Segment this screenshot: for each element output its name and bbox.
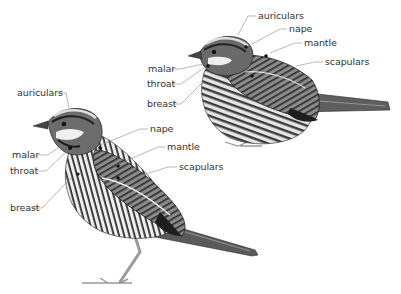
label-breast-right: breast [147, 99, 176, 109]
left-bird-foot [82, 278, 132, 283]
label-mantle-left: mantle [167, 142, 200, 152]
right-bird [188, 36, 390, 146]
right-bird-eye [212, 50, 216, 54]
label-throat-left: throat [10, 166, 38, 176]
label-nape-left: nape [150, 124, 173, 134]
label-malar-right: malar [148, 64, 175, 74]
bird-illustrations [0, 0, 401, 294]
bird-topography-diagram: auriculars nape malar mantle throat scap… [0, 0, 401, 294]
label-auriculars-left: auriculars [17, 88, 63, 98]
label-malar-left: malar [12, 150, 39, 160]
label-scapulars-left: scapulars [179, 162, 223, 172]
label-mantle-right: mantle [304, 38, 337, 48]
left-bird-leg [120, 233, 140, 282]
right-bird-bill [188, 51, 202, 59]
left-bird-bill [33, 121, 48, 129]
label-nape-right: nape [289, 24, 312, 34]
label-throat-right: throat [147, 79, 175, 89]
label-breast-left: breast [10, 203, 39, 213]
label-auriculars-right: auriculars [258, 11, 304, 21]
label-scapulars-right: scapulars [325, 57, 369, 67]
left-bird-eye [62, 122, 66, 126]
